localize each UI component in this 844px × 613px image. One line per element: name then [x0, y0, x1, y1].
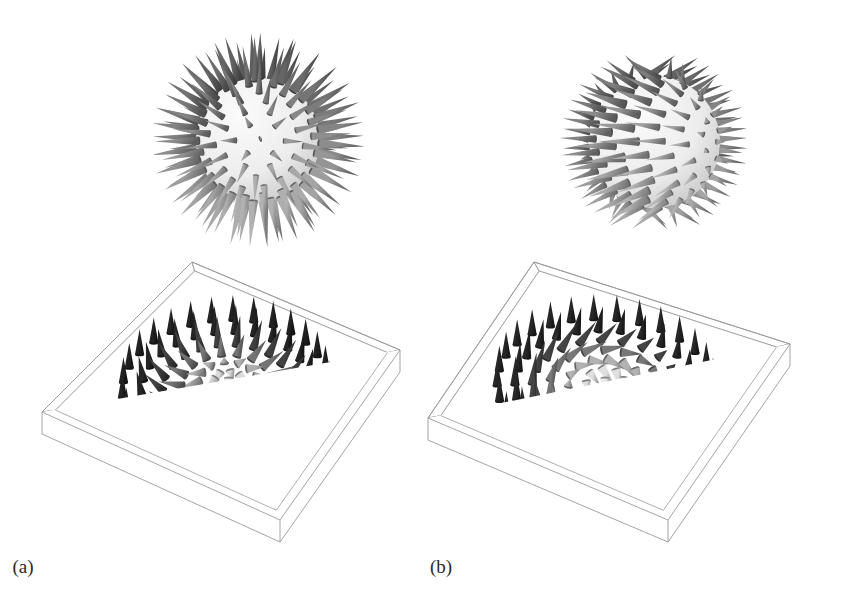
- box-render-a: [0, 248, 422, 548]
- figure-panel-a: (a): [0, 0, 422, 613]
- box-render-b: [422, 248, 844, 548]
- panel-caption-b: (b): [230, 556, 652, 578]
- sphere-spike-cone: [317, 139, 365, 149]
- sphere-spike-cone: [712, 163, 740, 175]
- sphere-spike-cone: [248, 199, 258, 247]
- sphere-render-a: [0, 10, 422, 250]
- sphere-spike-cone: [559, 135, 597, 143]
- figure-panel-b: (b): [422, 0, 844, 613]
- sphere-render-b: [422, 10, 844, 250]
- figure-root: (a) (b): [0, 0, 844, 613]
- vortex-sphere-svg-b: [422, 10, 844, 250]
- skyrmion-lattice-box-svg-b: [422, 248, 844, 548]
- hedgehog-sphere-svg-a: [0, 10, 422, 250]
- panel-caption-a: (a): [0, 556, 234, 578]
- skyrmion-lattice-box-svg-a: [0, 248, 422, 548]
